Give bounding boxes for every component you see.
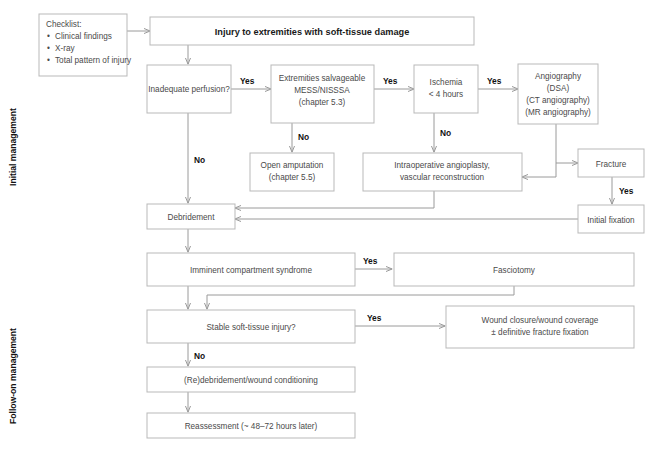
node-amputation-line-0: Open amputation bbox=[261, 161, 324, 170]
side-label-followon-text: Follow-on management bbox=[8, 328, 18, 424]
checklist-bullet-2: • bbox=[47, 56, 50, 65]
node-angiography-line-2: (CT angiography) bbox=[526, 96, 590, 105]
node-angiography: Angiography (DSA) (CT angiography) (MR a… bbox=[518, 64, 598, 124]
node-angiography-line-1: (DSA) bbox=[547, 84, 570, 93]
node-intraoperative-angioplasty: Intraoperative angioplasty, vascular rec… bbox=[363, 153, 522, 191]
edge-label-yes-fracture: Yes bbox=[619, 186, 634, 196]
flowchart-canvas: Initial management Follow-on management … bbox=[0, 0, 658, 449]
node-salvageable-line-0: Extremities salvageable bbox=[279, 74, 366, 83]
node-fracture: Fracture bbox=[578, 149, 644, 177]
node-title: Injury to extremities with soft-tissue d… bbox=[150, 17, 474, 45]
node-stable-soft-tissue-injury: Stable soft-tissue injury? bbox=[147, 310, 355, 343]
checklist-box: Checklist: • Clinical findings • X-ray •… bbox=[39, 14, 132, 76]
node-angiography-line-0: Angiography bbox=[535, 72, 582, 81]
node-compartment-line-0: Imminent compartment syndrome bbox=[190, 266, 312, 275]
node-intraop-line-0: Intraoperative angioplasty, bbox=[394, 161, 489, 170]
node-reassessment: Reassessment (~ 48–72 hours later) bbox=[147, 413, 355, 438]
edge-label-no-salvageable: No bbox=[298, 132, 309, 142]
node-ischemia: Ischemia < 4 hours bbox=[414, 65, 478, 113]
side-label-initial-management: Initial management bbox=[8, 108, 18, 186]
edge-label-yes-stable: Yes bbox=[367, 313, 382, 323]
node-salvageable-line-2: (chapter 5.3) bbox=[299, 98, 346, 107]
node-fasciotomy: Fasciotomy bbox=[394, 253, 634, 286]
checklist-bullet-0: • bbox=[47, 32, 50, 41]
side-label-followon-management: Follow-on management bbox=[8, 328, 18, 424]
node-extremities-salvageable: Extremities salvageable MESS/NISSSA (cha… bbox=[271, 65, 374, 123]
node-woundclosure-line-1: ± definitive fracture fixation bbox=[491, 328, 589, 337]
node-amputation-line-1: (chapter 5.5) bbox=[269, 173, 316, 182]
node-angiography-line-3: (MR angiography) bbox=[525, 108, 591, 117]
node-ischemia-line-0: Ischemia bbox=[430, 78, 463, 87]
edge-label-no-ischemia: No bbox=[440, 128, 451, 138]
node-fasciotomy-line-0: Fasciotomy bbox=[493, 266, 536, 275]
checklist-item-1: X-ray bbox=[55, 44, 75, 53]
node-debridement: Debridement bbox=[147, 204, 235, 229]
node-wound-closure: Wound closure/wound coverage ± definitiv… bbox=[446, 306, 634, 348]
edge-angiography-to-intraop bbox=[522, 163, 556, 177]
node-redebridement: (Re)debridement/wound conditioning bbox=[147, 367, 355, 392]
edge-label-yes-perfusion: Yes bbox=[240, 76, 255, 86]
checklist-heading: Checklist: bbox=[46, 20, 82, 29]
edge-label-yes-ischemia: Yes bbox=[487, 76, 502, 86]
node-title-line-0: Injury to extremities with soft-tissue d… bbox=[215, 27, 410, 37]
edge-label-yes-salvageable: Yes bbox=[383, 76, 398, 86]
checklist-item-2: Total pattern of injury bbox=[55, 56, 132, 65]
side-label-initial-text: Initial management bbox=[8, 108, 18, 186]
node-woundclosure-line-0: Wound closure/wound coverage bbox=[482, 316, 599, 325]
edge-label-no-stable: No bbox=[194, 351, 205, 361]
checklist-item-0: Clinical findings bbox=[55, 32, 112, 41]
node-ischemia-line-1: < 4 hours bbox=[429, 90, 463, 99]
checklist-bullet-1: • bbox=[47, 44, 50, 53]
edge-label-no-perfusion: No bbox=[194, 155, 205, 165]
edge-label-yes-compartment: Yes bbox=[363, 256, 378, 266]
node-perfusion-line-0: Inadequate perfusion? bbox=[148, 85, 230, 94]
node-salvageable-line-1: MESS/NISSSA bbox=[294, 86, 350, 95]
node-reassessment-line-0: Reassessment (~ 48–72 hours later) bbox=[185, 422, 318, 431]
node-fracture-line-0: Fracture bbox=[596, 160, 627, 169]
node-debridement-line-0: Debridement bbox=[168, 213, 216, 222]
node-intraop-line-1: vascular reconstruction bbox=[400, 173, 485, 182]
node-redebride-line-0: (Re)debridement/wound conditioning bbox=[184, 376, 318, 385]
node-inadequate-perfusion: Inadequate perfusion? bbox=[147, 65, 231, 113]
node-stable-line-0: Stable soft-tissue injury? bbox=[206, 323, 296, 332]
node-initialfix-line-0: Initial fixation bbox=[587, 216, 635, 225]
flowchart-svg: Initial management Follow-on management … bbox=[0, 0, 658, 449]
node-open-amputation: Open amputation (chapter 5.5) bbox=[250, 153, 334, 191]
edge-intraop-to-debridement bbox=[235, 191, 434, 208]
node-initial-fixation: Initial fixation bbox=[578, 205, 644, 233]
node-imminent-compartment-syndrome: Imminent compartment syndrome bbox=[147, 253, 355, 286]
